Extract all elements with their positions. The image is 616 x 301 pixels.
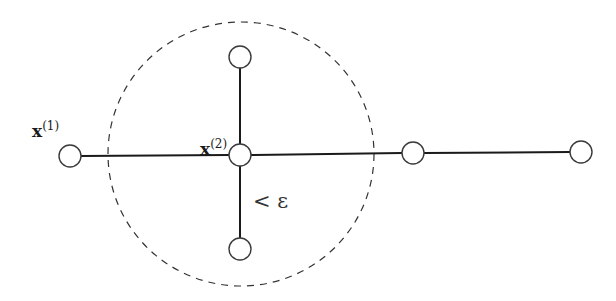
- edge-right1-right2: [424, 152, 570, 153]
- label-x2-sup: (2): [210, 137, 227, 151]
- node-top: [229, 46, 251, 68]
- node-x2: [229, 144, 251, 166]
- label-epsilon: < ε: [253, 189, 288, 213]
- label-x1-sup: (1): [42, 119, 59, 133]
- graph-diagram: x(1) x(2) < ε: [0, 0, 616, 301]
- edge-x2-right1: [251, 153, 402, 155]
- node-x1: [59, 145, 81, 167]
- node-right2: [570, 141, 592, 163]
- label-x1: x(1): [32, 119, 59, 141]
- node-right1: [402, 142, 424, 164]
- node-bottom: [229, 238, 251, 260]
